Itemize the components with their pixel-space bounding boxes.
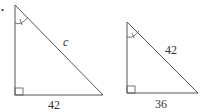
- base-label: 36: [155, 97, 167, 111]
- right-angle-mark-icon: [127, 86, 135, 93]
- right-angle-mark-icon: [15, 88, 23, 95]
- base-label: 42: [48, 98, 60, 112]
- left-triangle-outline: [15, 5, 103, 95]
- similar-triangles-diagram: • c 42 42 36: [0, 0, 211, 112]
- angle-tick-icon: [20, 19, 22, 25]
- hypotenuse-label: c: [63, 35, 69, 49]
- hypotenuse-label: 42: [165, 43, 177, 57]
- left-triangle: c 42: [15, 5, 103, 112]
- right-triangle: 42 36: [127, 22, 198, 111]
- bullet-marker: •: [1, 5, 4, 15]
